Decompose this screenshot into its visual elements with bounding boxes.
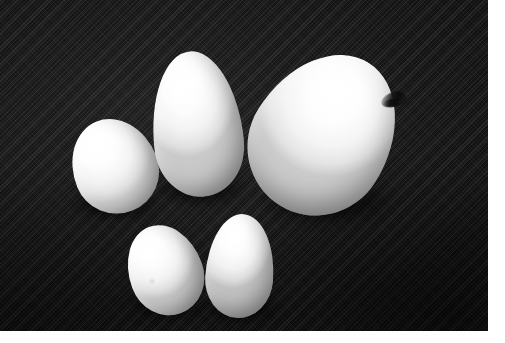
page-margin-bottom: [0, 331, 505, 343]
image-canvas: Five white bird eggs on black cloth Stud…: [0, 0, 505, 343]
photograph: [0, 0, 488, 331]
page-margin-right: [488, 0, 505, 343]
